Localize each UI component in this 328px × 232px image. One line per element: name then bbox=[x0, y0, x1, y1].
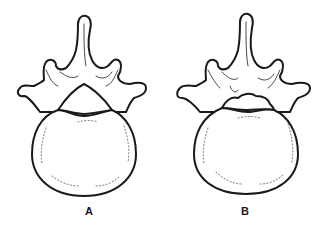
vertebra-figure-b: B bbox=[164, 0, 328, 232]
vertebral-body-b bbox=[194, 108, 298, 194]
vertebra-b-drawing bbox=[164, 0, 328, 232]
figure-label-b: B bbox=[235, 205, 255, 217]
vertebra-figure-a: A bbox=[0, 0, 164, 232]
figure-label-a: A bbox=[79, 205, 99, 217]
vertebral-body-a bbox=[32, 110, 136, 196]
vertebra-a-drawing bbox=[0, 0, 164, 232]
